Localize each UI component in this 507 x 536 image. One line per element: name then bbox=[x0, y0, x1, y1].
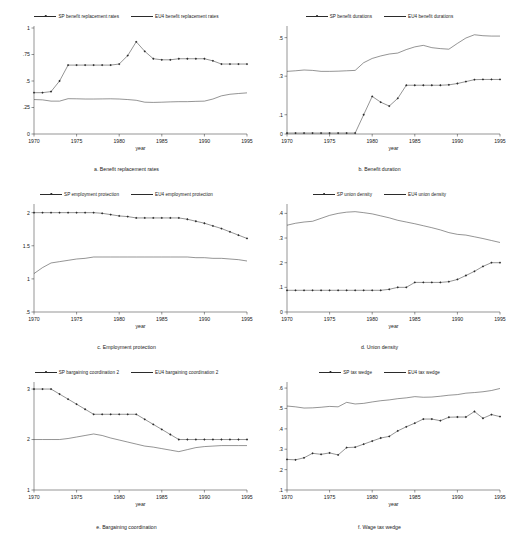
legend-item-sp: SP employment protection bbox=[40, 192, 119, 197]
panel-f: SP tax wedge EU4 tax wedge .1.2.3.4.5.61… bbox=[253, 356, 506, 536]
svg-text:0: 0 bbox=[280, 309, 283, 315]
svg-text:2: 2 bbox=[27, 210, 30, 216]
svg-text:1985: 1985 bbox=[409, 494, 421, 500]
legend-item-sp: SP tax wedge bbox=[319, 370, 372, 375]
svg-text:year: year bbox=[135, 145, 145, 151]
svg-text:1985: 1985 bbox=[156, 494, 168, 500]
caption-f: f. Wage tax wedge bbox=[253, 524, 506, 530]
legend-item-eu4: EU4 tax wedge bbox=[384, 370, 440, 375]
legend-label-sp: SP bargaining coordination 2 bbox=[59, 370, 119, 375]
svg-text:1: 1 bbox=[27, 487, 30, 493]
svg-text:1970: 1970 bbox=[28, 138, 40, 144]
legend-line-marker-icon bbox=[319, 370, 341, 375]
legend-label-eu4: EU4 benefit replacement rates bbox=[155, 14, 219, 19]
svg-text:1995: 1995 bbox=[494, 494, 506, 500]
svg-text:1970: 1970 bbox=[28, 494, 40, 500]
svg-text:1995: 1995 bbox=[241, 494, 253, 500]
legend-b: SP benefit durations EU4 benefit duratio… bbox=[253, 14, 506, 19]
svg-text:1980: 1980 bbox=[113, 494, 125, 500]
svg-text:1975: 1975 bbox=[71, 494, 83, 500]
svg-text:year: year bbox=[388, 501, 398, 507]
svg-text:.1: .1 bbox=[279, 284, 283, 290]
svg-text:.6: .6 bbox=[279, 385, 283, 391]
legend-item-sp: SP benefit replacement rates bbox=[34, 14, 119, 19]
panel-d: SP union density EU4 union density 0.1.2… bbox=[253, 178, 506, 356]
legend-f: SP tax wedge EU4 tax wedge bbox=[253, 370, 506, 375]
svg-text:.3: .3 bbox=[279, 446, 283, 452]
svg-text:year: year bbox=[135, 323, 145, 329]
plot-f: .1.2.3.4.5.6197019751980198519901995year bbox=[253, 378, 506, 518]
caption-b: b. Benefit duration bbox=[253, 166, 506, 172]
svg-text:1985: 1985 bbox=[409, 316, 421, 322]
legend-c: SP employment protection EU4 employment … bbox=[0, 192, 253, 197]
svg-text:1975: 1975 bbox=[324, 138, 336, 144]
svg-text:year: year bbox=[135, 501, 145, 507]
figure-grid: SP benefit replacement rates EU4 benefit… bbox=[0, 0, 507, 536]
svg-text:1980: 1980 bbox=[113, 138, 125, 144]
svg-text:1970: 1970 bbox=[28, 316, 40, 322]
legend-line-icon bbox=[131, 14, 153, 19]
svg-text:.5: .5 bbox=[279, 405, 283, 411]
svg-text:1985: 1985 bbox=[156, 138, 168, 144]
svg-text:1990: 1990 bbox=[452, 138, 464, 144]
legend-label-sp: SP tax wedge bbox=[343, 370, 372, 375]
legend-label-eu4: EU4 bargaining coordination 2 bbox=[155, 370, 218, 375]
svg-text:1990: 1990 bbox=[452, 316, 464, 322]
svg-text:1980: 1980 bbox=[366, 494, 378, 500]
panel-e: SP bargaining coordination 2 EU4 bargain… bbox=[0, 356, 253, 536]
svg-text:1970: 1970 bbox=[281, 494, 293, 500]
svg-text:1980: 1980 bbox=[113, 316, 125, 322]
svg-text:.5: .5 bbox=[26, 309, 30, 315]
svg-text:.75: .75 bbox=[23, 51, 30, 57]
svg-text:1990: 1990 bbox=[199, 316, 211, 322]
svg-text:3: 3 bbox=[27, 386, 30, 392]
legend-line-marker-icon bbox=[306, 14, 328, 19]
legend-line-marker-icon bbox=[35, 370, 57, 375]
plot-a: 0.25.5.751197019751980198519901995year bbox=[0, 22, 253, 162]
panel-a: SP benefit replacement rates EU4 benefit… bbox=[0, 0, 253, 178]
legend-label-sp: SP employment protection bbox=[64, 192, 119, 197]
legend-line-marker-icon bbox=[40, 192, 62, 197]
svg-text:1985: 1985 bbox=[156, 316, 168, 322]
svg-text:0: 0 bbox=[27, 131, 30, 137]
legend-a: SP benefit replacement rates EU4 benefit… bbox=[0, 14, 253, 19]
legend-line-icon bbox=[384, 14, 406, 19]
legend-label-sp: SP benefit replacement rates bbox=[58, 14, 119, 19]
svg-text:1990: 1990 bbox=[199, 494, 211, 500]
svg-text:.3: .3 bbox=[279, 73, 283, 79]
svg-text:1970: 1970 bbox=[281, 316, 293, 322]
svg-text:.1: .1 bbox=[279, 487, 283, 493]
svg-text:1975: 1975 bbox=[71, 138, 83, 144]
svg-text:.4: .4 bbox=[279, 426, 283, 432]
svg-text:1970: 1970 bbox=[281, 138, 293, 144]
svg-text:.1: .1 bbox=[279, 112, 283, 118]
legend-line-icon bbox=[131, 192, 153, 197]
svg-text:.4: .4 bbox=[279, 210, 283, 216]
legend-line-icon bbox=[384, 192, 406, 197]
svg-text:1985: 1985 bbox=[409, 138, 421, 144]
svg-text:1: 1 bbox=[27, 276, 30, 282]
legend-item-sp: SP bargaining coordination 2 bbox=[35, 370, 119, 375]
legend-line-marker-icon bbox=[313, 192, 335, 197]
caption-c: c. Employment protection bbox=[0, 344, 253, 350]
legend-item-eu4: EU4 employment protection bbox=[131, 192, 213, 197]
legend-label-eu4: EU4 union density bbox=[408, 192, 446, 197]
svg-text:1995: 1995 bbox=[494, 316, 506, 322]
legend-item-sp: SP benefit durations bbox=[306, 14, 372, 19]
legend-label-sp: SP benefit durations bbox=[330, 14, 372, 19]
svg-text:0: 0 bbox=[280, 131, 283, 137]
svg-text:.5: .5 bbox=[279, 35, 283, 41]
legend-label-eu4: EU4 tax wedge bbox=[408, 370, 440, 375]
legend-d: SP union density EU4 union density bbox=[253, 192, 506, 197]
legend-line-marker-icon bbox=[34, 14, 56, 19]
legend-line-icon bbox=[384, 370, 406, 375]
svg-text:.3: .3 bbox=[279, 235, 283, 241]
plot-e: 123197019751980198519901995year bbox=[0, 378, 253, 518]
plot-c: .511.52197019751980198519901995year bbox=[0, 200, 253, 340]
svg-text:year: year bbox=[388, 323, 398, 329]
svg-text:1995: 1995 bbox=[241, 316, 253, 322]
caption-d: d. Union density bbox=[253, 344, 506, 350]
legend-label-eu4: EU4 employment protection bbox=[155, 192, 213, 197]
legend-label-eu4: EU4 benefit durations bbox=[408, 14, 453, 19]
legend-item-eu4: EU4 union density bbox=[384, 192, 446, 197]
